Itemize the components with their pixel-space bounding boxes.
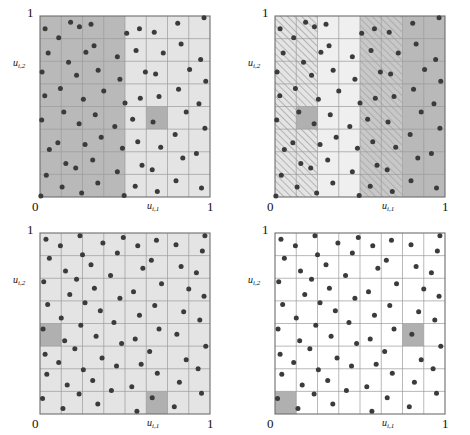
data-point bbox=[203, 79, 208, 84]
data-point bbox=[40, 70, 45, 75]
data-point bbox=[419, 109, 424, 114]
data-point bbox=[155, 371, 160, 376]
data-point bbox=[60, 185, 65, 190]
data-point bbox=[372, 26, 377, 31]
data-point bbox=[40, 396, 45, 401]
data-point bbox=[56, 35, 61, 40]
data-point bbox=[281, 51, 286, 56]
data-point bbox=[421, 287, 426, 292]
data-point bbox=[112, 124, 117, 129]
data-point bbox=[434, 185, 439, 190]
data-point bbox=[99, 135, 104, 140]
data-point bbox=[435, 249, 440, 254]
data-point bbox=[411, 87, 416, 92]
data-point bbox=[194, 270, 199, 275]
data-point bbox=[94, 334, 99, 339]
data-point bbox=[316, 97, 321, 102]
data-point bbox=[432, 317, 437, 322]
data-point bbox=[47, 147, 52, 152]
data-point bbox=[186, 287, 191, 292]
data-point bbox=[316, 367, 321, 372]
data-point bbox=[153, 71, 158, 76]
data-point bbox=[364, 384, 369, 389]
data-point bbox=[294, 316, 299, 321]
data-point bbox=[89, 262, 94, 267]
data-point bbox=[44, 372, 49, 377]
data-point bbox=[330, 180, 335, 185]
data-point bbox=[392, 326, 397, 331]
x-axis-tick-1: 1 bbox=[207, 200, 214, 213]
data-point bbox=[276, 279, 281, 284]
data-point bbox=[46, 51, 51, 56]
data-point bbox=[172, 404, 177, 409]
data-point bbox=[92, 43, 97, 48]
data-point bbox=[431, 366, 436, 371]
data-point bbox=[330, 402, 335, 407]
x-axis-label: ui,1 bbox=[147, 201, 159, 213]
data-point bbox=[83, 50, 88, 55]
data-point bbox=[276, 326, 281, 331]
data-point bbox=[282, 147, 287, 152]
data-point bbox=[120, 146, 125, 151]
data-point bbox=[197, 317, 202, 322]
data-point bbox=[278, 26, 283, 31]
data-point bbox=[43, 26, 48, 31]
data-point bbox=[275, 70, 280, 75]
data-point bbox=[419, 357, 424, 362]
data-point bbox=[346, 320, 351, 325]
data-point bbox=[151, 119, 156, 124]
data-point bbox=[343, 273, 348, 278]
data-point bbox=[309, 277, 314, 282]
data-point bbox=[301, 60, 306, 65]
data-point bbox=[77, 392, 82, 397]
data-point bbox=[375, 163, 380, 168]
data-point bbox=[202, 233, 207, 238]
data-point bbox=[291, 360, 296, 365]
data-point bbox=[180, 156, 185, 161]
data-point bbox=[73, 166, 78, 171]
data-point bbox=[62, 338, 67, 343]
data-point bbox=[173, 132, 178, 137]
data-point bbox=[147, 349, 152, 354]
scatter-plot-bottom-right bbox=[235, 217, 470, 435]
y-axis-label: ui,2 bbox=[13, 275, 25, 287]
data-point bbox=[81, 367, 86, 372]
data-point bbox=[42, 93, 47, 98]
data-point bbox=[135, 243, 140, 248]
data-point bbox=[349, 364, 354, 369]
data-point bbox=[139, 362, 144, 367]
data-point bbox=[72, 346, 77, 351]
data-point bbox=[150, 167, 155, 172]
data-point bbox=[77, 233, 82, 238]
data-point bbox=[134, 48, 139, 53]
data-point bbox=[115, 169, 120, 174]
data-point bbox=[429, 151, 434, 156]
data-point bbox=[143, 70, 148, 75]
data-point bbox=[179, 264, 184, 269]
data-point bbox=[409, 332, 414, 337]
data-point bbox=[318, 50, 323, 55]
data-point bbox=[74, 73, 79, 78]
data-point bbox=[350, 54, 355, 59]
data-point bbox=[176, 87, 181, 92]
data-point bbox=[157, 326, 162, 331]
data-point bbox=[375, 266, 380, 271]
data-point bbox=[90, 157, 95, 162]
data-point bbox=[333, 308, 338, 313]
data-point bbox=[179, 42, 184, 47]
x-axis-tick-0: 0 bbox=[32, 200, 39, 213]
highlight-cell bbox=[275, 391, 296, 414]
data-point bbox=[438, 344, 443, 349]
data-point bbox=[325, 157, 330, 162]
y-axis-tick-1: 1 bbox=[262, 223, 269, 236]
data-point bbox=[352, 296, 357, 301]
data-point bbox=[408, 132, 413, 137]
data-point bbox=[366, 289, 371, 294]
data-point bbox=[95, 180, 100, 185]
data-point bbox=[350, 250, 355, 255]
data-point bbox=[184, 357, 189, 362]
data-point bbox=[387, 303, 392, 308]
data-point bbox=[372, 313, 377, 318]
data-point bbox=[109, 388, 114, 393]
data-point bbox=[315, 252, 320, 257]
